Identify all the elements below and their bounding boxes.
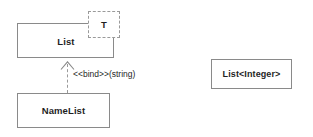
class-box-namelist[interactable]: NameList bbox=[17, 93, 110, 128]
diagram-canvas: List T <<bind>>(string) NameList List<In… bbox=[0, 0, 313, 137]
class-name-list: List bbox=[57, 36, 74, 47]
class-list-right-edge bbox=[113, 36, 114, 58]
class-list-top-edge bbox=[17, 23, 97, 24]
template-parameter-box[interactable]: T bbox=[88, 11, 120, 38]
bind-dependency-line[interactable] bbox=[67, 64, 68, 93]
class-box-list-integer[interactable]: List<Integer> bbox=[211, 59, 292, 89]
bind-dependency-label: <<bind>>(string) bbox=[73, 69, 135, 79]
class-name-namelist: NameList bbox=[42, 105, 86, 116]
class-name-list-integer: List<Integer> bbox=[223, 69, 281, 79]
template-parameter-name: T bbox=[101, 19, 107, 30]
